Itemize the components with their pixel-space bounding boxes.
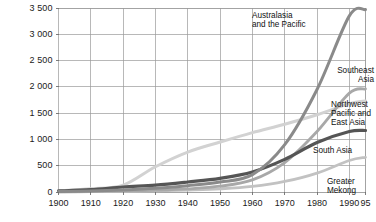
x-axis-tick-label: 95 (346, 198, 376, 208)
y-axis-tick-label: 1 500 (29, 108, 52, 118)
y-axis-tick-label: 2 500 (29, 55, 52, 65)
y-axis-tick-label: 0 (47, 187, 52, 197)
series-label-northwest: Northwest Pacific and East Asia (331, 100, 376, 128)
series-label-mekong: Greater Mekong (327, 177, 376, 195)
grid-layer (59, 8, 366, 192)
series-layer (59, 8, 366, 192)
y-axis-tick-label: 3 000 (29, 29, 52, 39)
chart-canvas (0, 0, 376, 222)
y-axis-tick-label: 3 500 (29, 3, 52, 13)
y-axis-tick-label: 500 (37, 160, 52, 170)
series-label-southasia: South Asia (313, 146, 375, 155)
series-label-australasia: Australasia and the Pacific (252, 11, 326, 29)
axis-layer (56, 8, 366, 195)
y-axis-tick-label: 1 000 (29, 134, 52, 144)
line-chart: 05001 0001 5002 0002 5003 0003 500 19001… (0, 0, 376, 222)
y-axis-tick-label: 2 000 (29, 81, 52, 91)
series-label-southeast: Southeast Asia (322, 66, 374, 84)
series-line (59, 8, 366, 191)
